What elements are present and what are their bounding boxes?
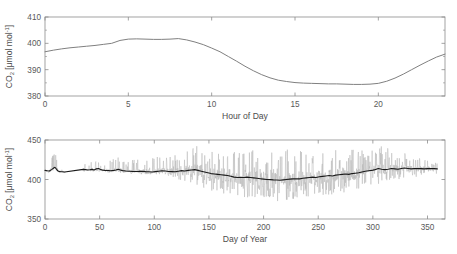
y-tick-label: 450 [27, 136, 41, 145]
x-tick-label: 350 [421, 223, 435, 232]
y-tick-label: 400 [27, 39, 41, 48]
y-axis-title-co: CO [4, 198, 14, 211]
y-axis-title-bracket: ] [4, 148, 14, 150]
chart-panel-diurnal: 05101520380390400410Hour of DayCO2 [μmol… [0, 0, 457, 127]
x-tick-label: 150 [202, 223, 216, 232]
diurnal-plot-svg: 05101520380390400410Hour of DayCO2 [μmol… [0, 0, 457, 127]
noise-series-0 [45, 146, 437, 201]
x-tick-label: 0 [43, 100, 48, 109]
y-tick-label: 400 [27, 176, 41, 185]
y-axis-title-bracket: ] [4, 25, 14, 27]
figure-container: 05101520380390400410Hour of DayCO2 [μmol… [0, 0, 457, 254]
x-axis-title: Day of Year [223, 234, 268, 244]
noise-trace [45, 146, 437, 201]
y-tick-label: 380 [27, 92, 41, 101]
x-tick-label: 0 [43, 223, 48, 232]
y-axis-title: CO2 [μmol mol-1] [4, 25, 15, 88]
chart-panel-annual: 050100150200250300350350400450Day of Yea… [0, 127, 457, 254]
x-tick-label: 250 [311, 223, 325, 232]
y-tick-label: 410 [27, 13, 41, 22]
annual-plot-svg: 050100150200250300350350400450Day of Yea… [0, 127, 457, 254]
x-tick-label: 100 [147, 223, 161, 232]
x-tick-label: 10 [207, 100, 217, 109]
y-axis-title: CO2 [μmol mol-1] [4, 148, 15, 211]
y-tick-label: 350 [27, 215, 41, 224]
x-tick-label: 50 [95, 223, 105, 232]
y-axis-title-units: [μmol mol [4, 155, 14, 195]
x-tick-label: 300 [366, 223, 380, 232]
y-axis-title-units: [μmol mol [4, 32, 14, 72]
x-tick-label: 15 [290, 100, 300, 109]
x-tick-label: 5 [126, 100, 131, 109]
x-tick-label: 20 [374, 100, 384, 109]
y-tick-label: 390 [27, 66, 41, 75]
y-axis-title-co: CO [4, 75, 14, 88]
x-tick-label: 200 [257, 223, 271, 232]
plot-frame [45, 17, 445, 96]
data-line-0 [45, 39, 445, 85]
x-axis-title: Hour of Day [222, 111, 269, 121]
